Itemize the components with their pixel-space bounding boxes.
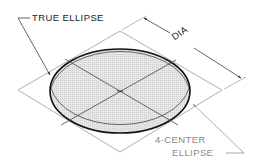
diagram-svg [0, 0, 259, 168]
true-ellipse-label: TRUE ELLIPSE [32, 13, 104, 23]
dia-dimension-line-lower [194, 48, 241, 78]
true-ellipse-leader [18, 18, 50, 75]
four-center-leader [193, 104, 244, 153]
extension-line-right [224, 77, 246, 89]
extension-line-top [122, 16, 146, 30]
four-center-label-line1: 4-CENTER [155, 135, 206, 145]
isometric-ellipse-diagram: DIA TRUE ELLIPSE 4-CENTER ELLIPSE [0, 0, 259, 168]
dia-dimension-line-upper [144, 18, 170, 33]
four-center-label-line2: ELLIPSE [172, 148, 213, 158]
